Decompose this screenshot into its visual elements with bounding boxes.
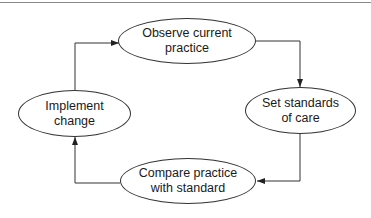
node-label: Compare practice with standard bbox=[139, 166, 238, 196]
node-implement-change: Implement change bbox=[18, 90, 131, 137]
node-compare-practice-with-standard: Compare practice with standard bbox=[120, 158, 256, 204]
arrow-observe-to-set bbox=[256, 41, 300, 87]
node-label: Implement change bbox=[45, 99, 103, 129]
arrow-set-to-compare bbox=[257, 134, 300, 181]
node-label: Set standards of care bbox=[262, 96, 339, 126]
node-observe-current-practice: Observe current practice bbox=[118, 18, 256, 64]
arrow-compare-to-implement bbox=[75, 137, 120, 183]
node-set-standards-of-care: Set standards of care bbox=[245, 87, 356, 134]
arrow-implement-to-observe bbox=[75, 43, 119, 90]
node-label: Observe current practice bbox=[142, 26, 232, 56]
